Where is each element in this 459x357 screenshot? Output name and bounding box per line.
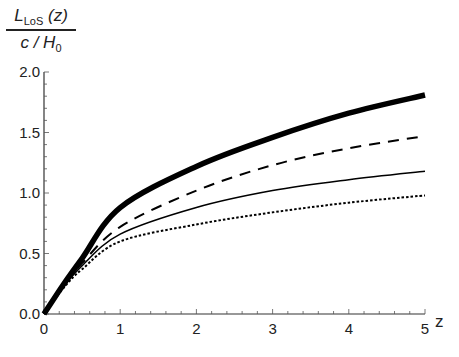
y-tick-label: 0.5 [19,245,40,262]
line-chart: 0123450.00.51.01.52.0 [0,0,459,357]
x-tick-label: 0 [40,320,48,337]
x-tick-label: 4 [345,320,353,337]
x-tick-label: 5 [421,320,429,337]
x-tick-label: 1 [116,320,124,337]
x-tick-label: 3 [268,320,276,337]
x-tick-label: 2 [192,320,200,337]
y-tick-label: 1.5 [19,124,40,141]
y-tick-label: 2.0 [19,63,40,80]
series-thick-line [44,95,425,314]
y-tick-label: 1.0 [19,184,40,201]
x-axis-label: z [435,312,444,332]
series-dotted-line [44,195,425,314]
series-solid-line [44,171,425,314]
y-tick-label: 0.0 [19,305,40,322]
